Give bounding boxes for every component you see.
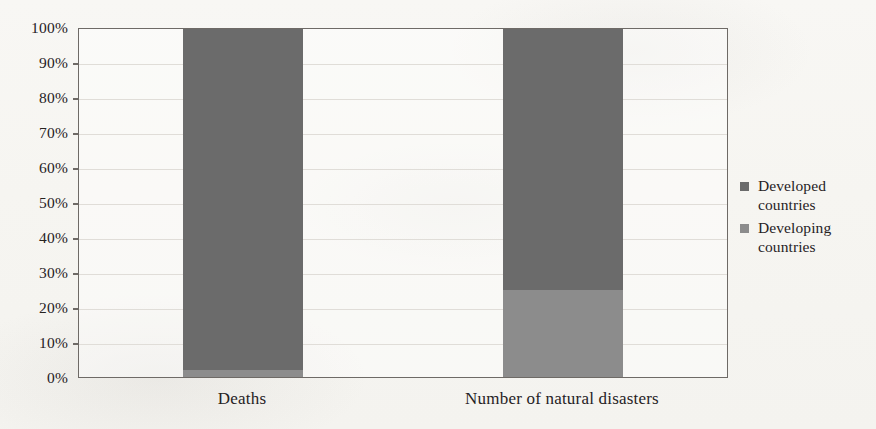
bar-segment[interactable]	[183, 370, 303, 377]
y-axis: 100%90%80%70%60%50%40%30%20%10%0%	[0, 0, 68, 429]
bar-segment[interactable]	[503, 29, 623, 290]
legend-label: Developingcountries	[758, 218, 831, 256]
legend-label-line1: Developing	[758, 218, 831, 237]
y-axis-tick-mark	[73, 133, 79, 134]
y-axis-tick-label: 90%	[0, 54, 68, 72]
y-axis-tick-mark	[73, 63, 79, 64]
x-axis-category-label: Deaths	[218, 389, 266, 409]
y-axis-tick-label: 50%	[0, 194, 68, 212]
legend-item[interactable]: Developingcountries	[740, 218, 870, 256]
y-axis-tick-label: 80%	[0, 89, 68, 107]
y-axis-tick-mark	[73, 308, 79, 309]
legend-label: Developedcountries	[758, 176, 826, 214]
y-axis-tick-label: 30%	[0, 264, 68, 282]
y-axis-tick-mark	[73, 273, 79, 274]
legend-label-line1: Developed	[758, 176, 826, 195]
legend-label-line2: countries	[758, 237, 831, 256]
y-axis-tick-mark	[73, 168, 79, 169]
y-axis-tick-label: 40%	[0, 229, 68, 247]
gridline	[79, 64, 727, 65]
legend-color-swatch	[740, 224, 749, 233]
x-axis-category-label: Number of natural disasters	[465, 389, 659, 409]
gridline	[79, 309, 727, 310]
y-axis-tick-label: 100%	[0, 19, 68, 37]
gridline	[79, 169, 727, 170]
bar-segment[interactable]	[183, 29, 303, 370]
y-axis-tick-mark	[73, 343, 79, 344]
bar-segment[interactable]	[503, 290, 623, 377]
gridline	[79, 99, 727, 100]
y-axis-tick-label: 0%	[0, 369, 68, 387]
legend-color-swatch	[740, 182, 749, 191]
plot-area	[78, 28, 728, 378]
bar-stack	[503, 29, 623, 377]
bar-group[interactable]	[503, 29, 623, 377]
bar-stack	[183, 29, 303, 377]
y-axis-tick-mark	[73, 98, 79, 99]
legend-label-line2: countries	[758, 195, 826, 214]
y-axis-tick-label: 60%	[0, 159, 68, 177]
gridline	[79, 239, 727, 240]
bar-group[interactable]	[183, 29, 303, 377]
stacked-bar-chart: 100%90%80%70%60%50%40%30%20%10%0% Develo…	[0, 0, 876, 429]
gridline	[79, 274, 727, 275]
y-axis-tick-mark	[73, 238, 79, 239]
gridline	[79, 134, 727, 135]
legend-item[interactable]: Developedcountries	[740, 176, 870, 214]
gridline	[79, 344, 727, 345]
y-axis-tick-label: 70%	[0, 124, 68, 142]
y-axis-tick-label: 10%	[0, 334, 68, 352]
y-axis-tick-label: 20%	[0, 299, 68, 317]
gridline	[79, 204, 727, 205]
chart-legend: DevelopedcountriesDevelopingcountries	[740, 176, 870, 260]
y-axis-tick-mark	[73, 203, 79, 204]
